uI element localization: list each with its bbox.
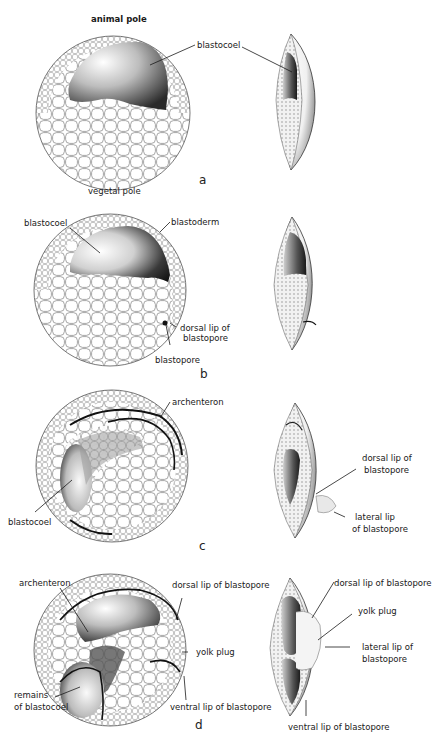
label-dorsal-lip-b-1: dorsal lip of [180, 323, 230, 333]
label-dorsal-lip-c-1: dorsal lip of [362, 453, 412, 463]
label-dorsal-lip-d-right: dorsal lip of blastopore [334, 578, 432, 588]
stage-b-section [34, 214, 186, 366]
stage-b-hemisphere [274, 217, 316, 350]
stage-letter-d: d [195, 718, 203, 732]
label-dorsal-lip-b-2: blastopore [183, 333, 228, 343]
stage-letter-b: b [200, 367, 208, 381]
label-blastocoel-b: blastocoel [24, 218, 67, 228]
label-lateral-lip-c-1: lateral lip [355, 512, 395, 522]
label-vegetal-pole: vegetal pole [88, 186, 141, 196]
label-blastocoel-c: blastocoel [8, 517, 51, 527]
label-blastopore-b: blastopore [155, 355, 200, 365]
label-remains-d-1: remains [14, 690, 48, 700]
stage-letter-c: c [199, 539, 206, 553]
stage-c-hemisphere [274, 403, 336, 538]
label-lateral-lip-c-2: of blastopore [352, 524, 408, 534]
label-ventral-lip-d: ventral lip of blastopore [170, 702, 272, 712]
label-archenteron-c: archenteron [172, 397, 224, 407]
label-dorsal-lip-c-2: blastopore [364, 465, 409, 475]
label-blastocoel-a: blastocoel [197, 40, 240, 50]
stage-c-section [36, 390, 188, 542]
stage-a-hemisphere [276, 34, 315, 170]
label-ventral-lip-d-right: ventral lip of blastopore [288, 722, 390, 732]
label-lateral-lip-d-right-2: blastopore [362, 654, 407, 664]
label-dorsal-lip-d: dorsal lip of blastopore [172, 580, 270, 590]
label-yolk-plug-d-right: yolk plug [358, 606, 397, 616]
stage-letter-a: a [199, 173, 206, 187]
label-animal-pole: animal pole [91, 14, 147, 24]
label-yolk-plug-d: yolk plug [196, 647, 235, 657]
label-lateral-lip-d-right-1: lateral lip of [362, 642, 413, 652]
label-blastoderm: blastoderm [171, 217, 219, 227]
stage-a-section [36, 36, 190, 190]
label-remains-d-2: of blastocoel [14, 702, 68, 712]
embryo-gastrulation-figure [0, 0, 439, 746]
stage-d-hemisphere [270, 578, 321, 716]
label-archenteron-d: archenteron [19, 578, 71, 588]
